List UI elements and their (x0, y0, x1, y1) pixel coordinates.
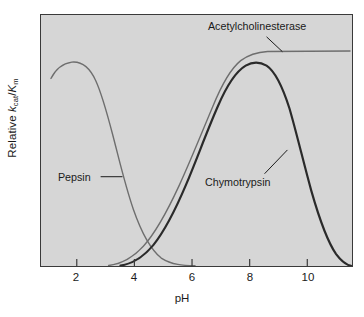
y-axis-title-k-subscript: cat (11, 96, 20, 106)
y-axis-title-K: K (6, 85, 18, 93)
leader-line-acetylcholinesterase (267, 37, 283, 52)
x-axis-title: pH (0, 292, 364, 304)
figure-container: Pepsin Acetylcholinesterase Chymotrypsin… (0, 0, 364, 317)
y-axis-title-k: k (6, 106, 18, 112)
x-axis-tick-labels: 2 4 6 8 10 (40, 271, 353, 287)
x-tick-label-10: 10 (302, 271, 315, 283)
curve-label-acetylcholinesterase: Acetylcholinesterase (208, 20, 306, 32)
y-axis-title-K-subscript: m (11, 78, 20, 84)
x-tick-label-6: 6 (189, 271, 195, 283)
leader-line-chymotrypsin (265, 150, 288, 174)
y-axis-title-prefix: Relative (6, 112, 18, 158)
y-axis-title: Relative kcat/Km (6, 0, 18, 248)
curve-label-pepsin: Pepsin (58, 171, 91, 183)
plot-area: Pepsin Acetylcholinesterase Chymotrypsin (40, 14, 353, 267)
x-tick-label-4: 4 (131, 271, 137, 283)
curve-label-chymotrypsin: Chymotrypsin (205, 176, 271, 188)
x-tick-label-8: 8 (247, 271, 253, 283)
curve-pepsin (51, 62, 195, 266)
curve-chymotrypsin (120, 63, 351, 266)
x-tick-label-2: 2 (73, 271, 79, 283)
plot-svg: Pepsin Acetylcholinesterase Chymotrypsin (41, 15, 352, 266)
